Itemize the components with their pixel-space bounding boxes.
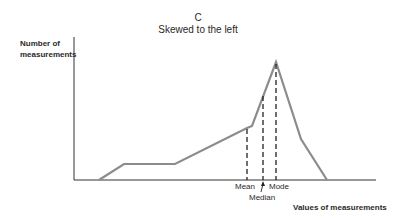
mode-label: Mode bbox=[269, 182, 289, 191]
median-label: Median bbox=[249, 193, 275, 202]
x-axis-label: Values of measurements bbox=[293, 203, 387, 212]
mean-label: Mean bbox=[235, 182, 255, 191]
median-arrow-head bbox=[261, 181, 265, 186]
distribution-curve bbox=[99, 62, 327, 180]
chart-plot bbox=[0, 0, 396, 218]
